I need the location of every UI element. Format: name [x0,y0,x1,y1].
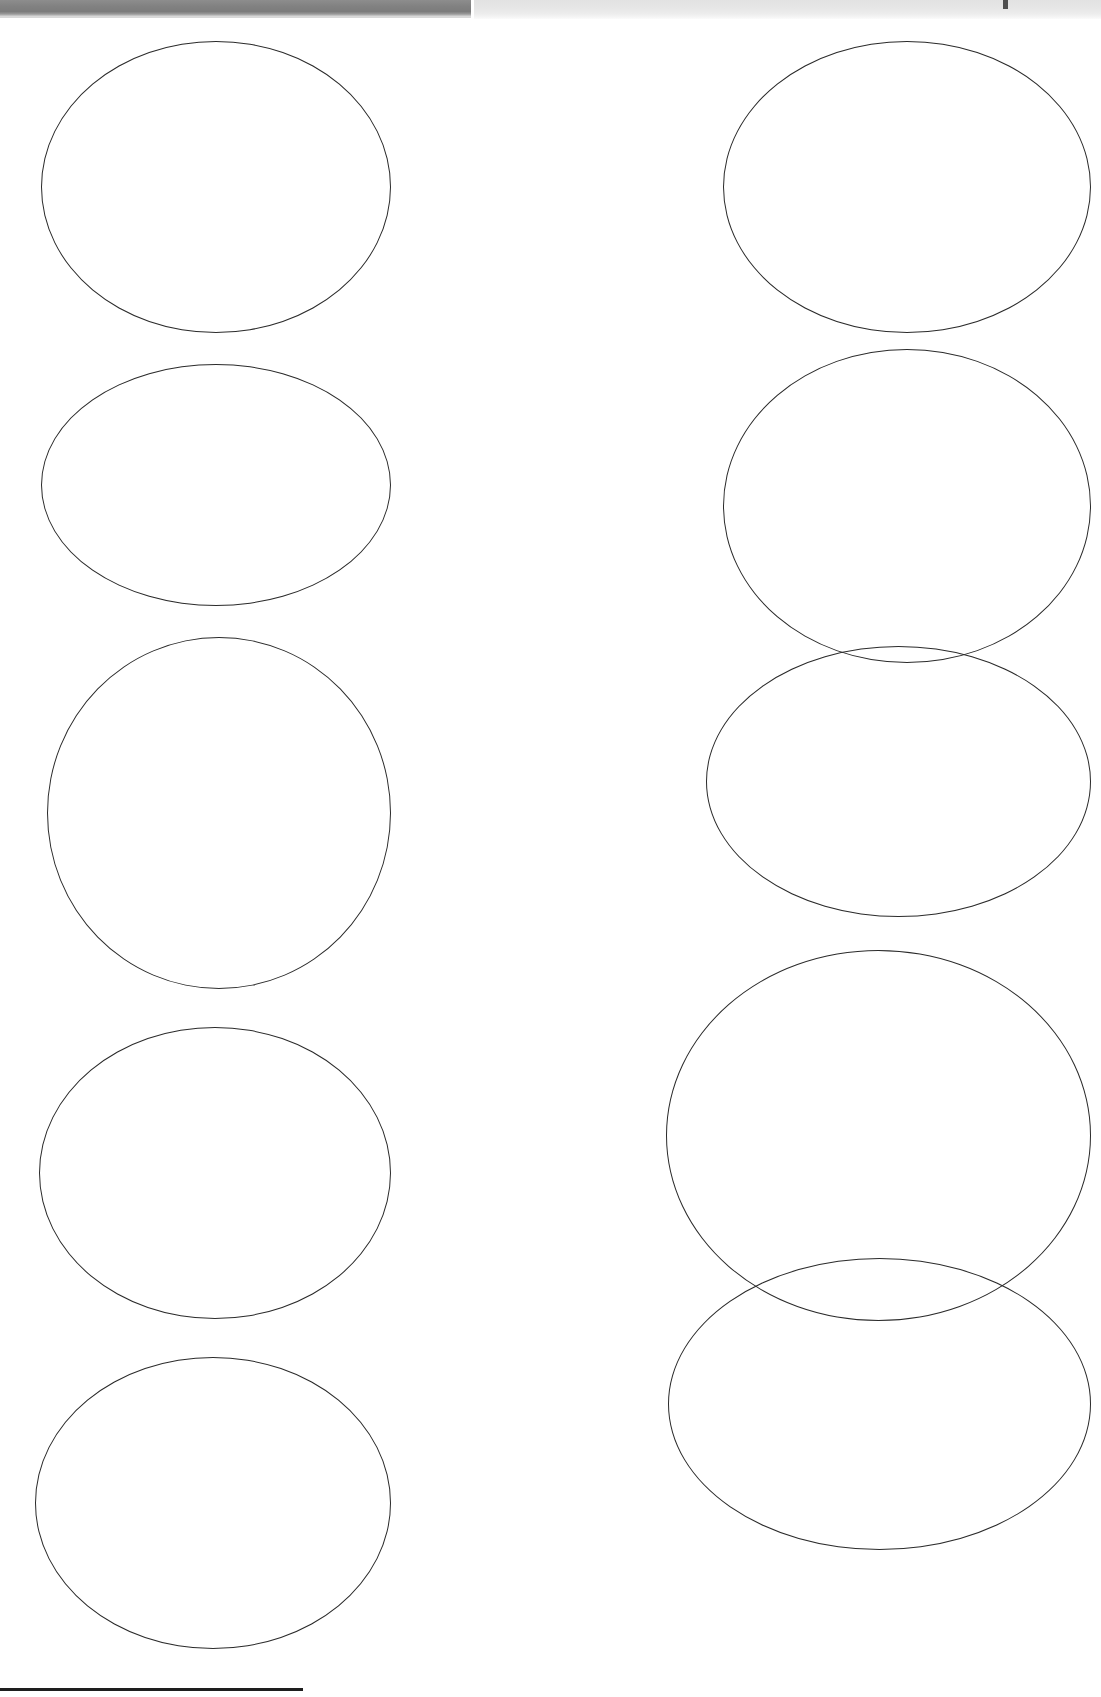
document-page [0,0,1101,1697]
label-oval[interactable] [39,1027,391,1319]
label-oval[interactable] [723,41,1091,333]
label-oval[interactable] [47,637,391,989]
label-oval[interactable] [706,646,1091,917]
label-oval[interactable] [41,364,391,606]
label-oval[interactable] [723,349,1091,663]
registration-tick-mark [1003,0,1008,9]
label-oval[interactable] [41,41,391,333]
label-oval[interactable] [35,1357,391,1649]
label-oval[interactable] [668,1258,1091,1550]
dark-scan-bar [0,0,471,16]
bottom-horizontal-rule [0,1688,303,1691]
